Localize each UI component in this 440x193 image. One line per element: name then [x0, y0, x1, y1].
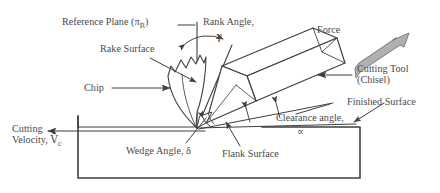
label-cutting-velocity-sub: c [58, 139, 62, 148]
label-cutting-velocity: Cutting Velocity, V̄c [12, 123, 62, 149]
label-reference-plane: Reference Plane (πR) [62, 16, 148, 30]
label-cutting-tool-line1: Cutting Tool [357, 63, 408, 74]
label-rake-angle-symbol: γ [216, 31, 222, 42]
label-force: Force [317, 24, 340, 35]
label-chip: Chip [84, 82, 104, 93]
leader-flank-surface [226, 122, 240, 146]
label-clearance-angle-symbol: ∝ [297, 126, 304, 137]
label-cutting-velocity-symbol: V̄ [50, 134, 57, 145]
label-rake-surface: Rake Surface [100, 43, 155, 54]
label-cutting-velocity-line1: Cutting [12, 123, 62, 134]
label-flank-surface: Flank Surface [222, 148, 279, 159]
label-rake-angle: Rank Angle, [203, 16, 254, 27]
label-cutting-tool: Cutting Tool (Chisel) [357, 63, 408, 86]
label-cutting-velocity-line2: Velocity, V̄c [12, 134, 62, 148]
label-clearance-angle: Clearance angle, [276, 112, 344, 123]
label-wedge-angle: Wedge Angle, δ [126, 145, 191, 156]
label-finished-surface: Finished Surface [347, 96, 416, 107]
label-cutting-tool-line2: (Chisel) [357, 74, 408, 85]
cutting-geometry-diagram: Reference Plane (πR) Rank Angle, γ Rake … [0, 0, 440, 193]
